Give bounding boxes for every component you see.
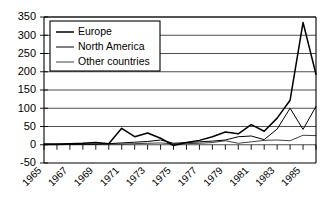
y-axis-tick-label: 100 — [18, 102, 36, 114]
line-chart: -500501001502002503003501965196719691971… — [0, 0, 329, 219]
x-axis-tick-label: 1979 — [201, 164, 225, 188]
x-axis-tick-label: 1977 — [175, 164, 199, 188]
x-axis-tick-label: 1971 — [98, 164, 122, 188]
x-axis-tick-label: 1969 — [72, 164, 96, 188]
series-line-north-america — [44, 106, 316, 144]
x-axis-tick-label: 1973 — [124, 164, 148, 188]
y-axis-tick-label: 250 — [18, 47, 36, 59]
x-axis-tick-label: 1981 — [227, 164, 251, 188]
x-axis-tick-label: 1967 — [46, 164, 70, 188]
y-axis-tick-label: 50 — [24, 120, 36, 132]
legend-label-europe: Europe — [78, 25, 112, 37]
y-axis-tick-label: 350 — [18, 10, 36, 22]
legend-label-other-countries: Other countries — [78, 55, 150, 67]
x-axis-tick-label: 1983 — [253, 164, 277, 188]
y-axis-tick-label: 200 — [18, 65, 36, 77]
x-axis-tick-label: 1975 — [149, 164, 173, 188]
x-axis-tick-label: 1985 — [279, 164, 303, 188]
legend-label-north-america: North America — [78, 40, 145, 52]
chart-canvas: -500501001502002503003501965196719691971… — [0, 0, 329, 219]
y-axis-tick-label: 150 — [18, 83, 36, 95]
y-axis-tick-label: 0 — [30, 138, 36, 150]
y-axis-tick-label: 300 — [18, 29, 36, 41]
